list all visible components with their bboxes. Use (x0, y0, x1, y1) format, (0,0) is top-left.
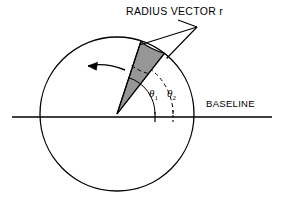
theta1-subscript: 1 (154, 94, 158, 102)
theta2-label: θ2 (167, 88, 176, 102)
shaded-sector (117, 42, 164, 114)
radius-vector-title-label: RADIUS VECTOR r (126, 6, 223, 17)
radius-vector-diagram: RADIUS VECTOR r BASELINE θ1 θ2 (0, 0, 281, 212)
theta2-subscript: 2 (172, 94, 176, 102)
rotation-arrow-head (88, 62, 98, 70)
baseline-label: BASELINE (206, 99, 255, 109)
leader-line-stem (178, 20, 197, 27)
theta1-label: θ1 (149, 88, 158, 102)
